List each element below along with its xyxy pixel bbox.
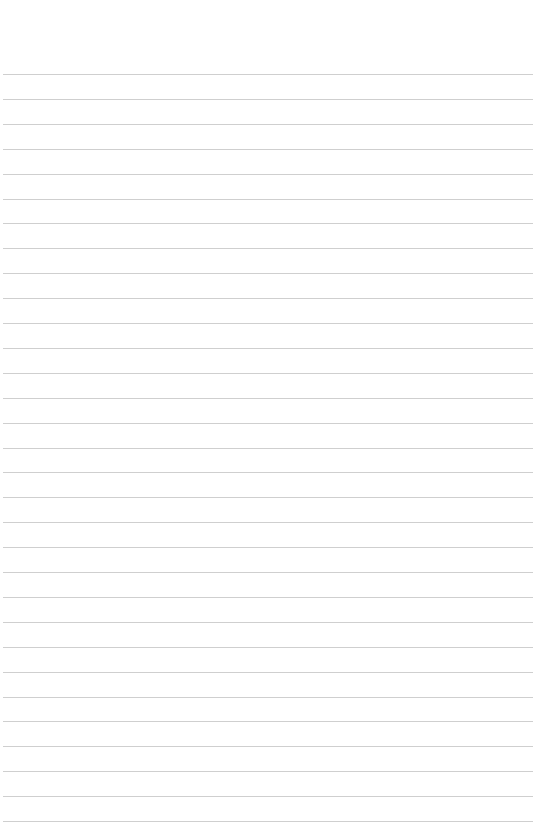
ruled-line [3, 796, 533, 797]
ruled-line [3, 746, 533, 747]
ruled-line [3, 497, 533, 498]
ruled-line [3, 423, 533, 424]
ruled-line [3, 522, 533, 523]
ruled-line [3, 721, 533, 722]
ruled-line [3, 448, 533, 449]
ruled-line [3, 572, 533, 573]
ruled-line [3, 647, 533, 648]
ruled-line [3, 547, 533, 548]
ruled-line [3, 149, 533, 150]
ruled-line [3, 223, 533, 224]
ruled-line [3, 472, 533, 473]
ruled-line [3, 348, 533, 349]
ruled-line [3, 323, 533, 324]
ruled-line [3, 821, 533, 822]
ruled-line [3, 74, 533, 75]
ruled-line [3, 373, 533, 374]
ruled-line [3, 273, 533, 274]
lined-page [0, 0, 537, 836]
ruled-line [3, 199, 533, 200]
ruled-line [3, 398, 533, 399]
ruled-line [3, 697, 533, 698]
ruled-line [3, 248, 533, 249]
ruled-line [3, 622, 533, 623]
ruled-line [3, 99, 533, 100]
ruled-line [3, 174, 533, 175]
ruled-line [3, 771, 533, 772]
ruled-line [3, 298, 533, 299]
ruled-line [3, 597, 533, 598]
ruled-line [3, 672, 533, 673]
ruled-line [3, 124, 533, 125]
